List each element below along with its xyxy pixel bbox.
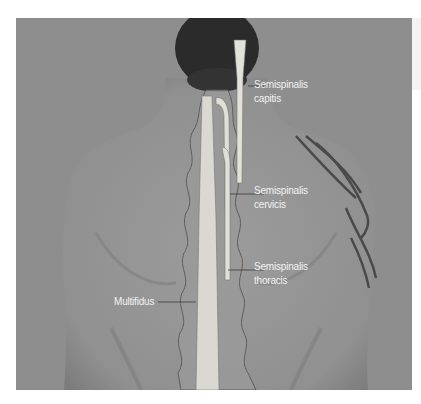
back-illustration	[16, 18, 412, 390]
label-line: capitis	[254, 92, 308, 106]
label-line: Semispinalis	[254, 78, 308, 92]
label-multifidus: Multifidus	[114, 295, 154, 309]
page-edge	[412, 18, 421, 90]
label-semispinalis-capitis: Semispinalis capitis	[254, 78, 308, 106]
label-line: Semispinalis	[254, 260, 308, 274]
label-line: Semispinalis	[254, 184, 308, 198]
label-semispinalis-thoracis: Semispinalis thoracis	[254, 260, 308, 288]
label-semispinalis-cervicis: Semispinalis cervicis	[254, 184, 308, 212]
label-line: Multifidus	[114, 295, 154, 309]
label-line: thoracis	[254, 274, 308, 288]
label-line: cervicis	[254, 198, 308, 212]
anatomy-figure: Semispinalis capitis Semispinalis cervic…	[16, 18, 412, 390]
